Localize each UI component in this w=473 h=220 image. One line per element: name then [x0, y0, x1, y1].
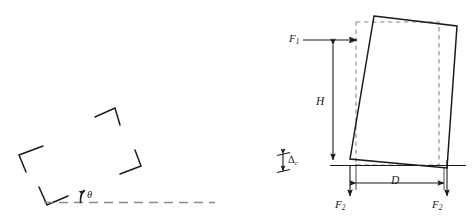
label-base-D: D: [391, 175, 399, 187]
label-force-F2-left-base: F: [335, 198, 342, 210]
label-gap-delta: Δc: [288, 155, 298, 167]
label-height-H: H: [316, 96, 324, 108]
bracket-left: [19, 146, 43, 172]
bracket-right: [120, 150, 141, 174]
label-force-F2-left-sub: 2: [342, 203, 346, 212]
label-force-F2-left: F2: [335, 199, 345, 212]
label-angle-theta: θ: [87, 190, 92, 201]
left-panel: [19, 108, 215, 205]
base-dimension-D: [356, 164, 444, 190]
label-force-F1-base: F: [289, 32, 296, 44]
label-gap-delta-base: Δ: [288, 154, 295, 165]
theta-arc-arrow: [80, 191, 84, 203]
solid-tilted-rectangle: [350, 16, 457, 168]
label-gap-delta-sub: c: [295, 159, 298, 167]
label-force-F2-right: F2: [432, 199, 442, 212]
figure-canvas: [0, 0, 473, 220]
label-force-F1: F1: [289, 33, 299, 46]
bracket-upper-middle: [95, 108, 120, 125]
dashed-reference-rectangle: [356, 22, 439, 165]
label-force-F2-right-sub: 2: [439, 203, 443, 212]
right-panel: [277, 16, 466, 196]
figure-root: F1 H D F2 F2 Δc θ: [0, 0, 473, 220]
label-force-F1-sub: 1: [296, 37, 300, 46]
label-force-F2-right-base: F: [432, 198, 439, 210]
